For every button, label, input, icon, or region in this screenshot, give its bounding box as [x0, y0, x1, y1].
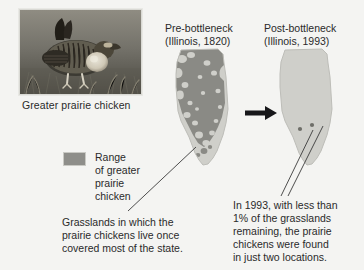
heading-post-line1: Post-bottleneck	[264, 22, 336, 34]
population-dot	[298, 127, 302, 131]
illinois-map-1993	[272, 47, 346, 167]
callout-right-line-3: remaining, the prairie	[233, 225, 337, 238]
callout-right-line-4: chickens were found	[233, 238, 337, 251]
greater-prairie-chicken-photo	[19, 9, 142, 95]
callout-right-line-2: 1% of the grasslands	[233, 212, 337, 225]
callout-left-line-1: Grasslands in which the	[62, 216, 183, 229]
callout-1993-locations: In 1993, with less than 1% of the grassl…	[233, 199, 337, 264]
photo-caption: Greater prairie chicken	[22, 99, 131, 111]
legend-line-2: of greater	[95, 164, 140, 177]
callout-left-line-3: covered most of the state.	[62, 242, 183, 255]
heading-post-line2: (Illinois, 1993)	[264, 35, 336, 48]
legend-line-3: prairie	[95, 177, 140, 190]
legend: Range of greater prairie chicken	[63, 151, 140, 203]
legend-swatch-range	[63, 152, 86, 166]
callout-right-line-5: in just two locations.	[233, 251, 337, 264]
callout-left-line-2: prairie chickens live once	[62, 229, 183, 242]
population-dot	[310, 123, 314, 127]
legend-line-1: Range	[95, 151, 140, 164]
map-heading-post-bottleneck: Post-bottleneck (Illinois, 1993)	[264, 22, 336, 47]
legend-line-4: chicken	[95, 190, 140, 203]
callout-grasslands: Grasslands in which the prairie chickens…	[62, 216, 183, 255]
heading-pre-line2: (Illinois, 1820)	[165, 35, 233, 48]
bottleneck-figure: Greater prairie chicken Pre-bottleneck (…	[0, 0, 364, 270]
callout-right-line-1: In 1993, with less than	[233, 199, 337, 212]
illinois-map-1820	[168, 47, 242, 167]
legend-label: Range of greater prairie chicken	[95, 151, 140, 203]
heading-pre-line1: Pre-bottleneck	[165, 22, 233, 34]
map-heading-pre-bottleneck: Pre-bottleneck (Illinois, 1820)	[165, 22, 233, 47]
